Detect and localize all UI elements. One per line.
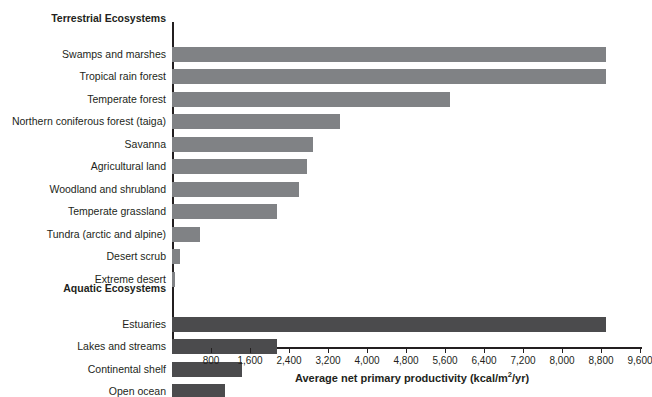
category-label: Agricultural land: [0, 161, 172, 172]
group-heading-aquatic: Aquatic Ecosystems: [0, 283, 172, 294]
bar: [172, 227, 200, 242]
x-axis-tick-label: 9,600: [627, 355, 652, 367]
x-axis-tick: [367, 348, 368, 353]
bar: [172, 114, 340, 129]
x-axis-tick: [640, 348, 641, 353]
bar: [172, 69, 606, 84]
bar: [172, 249, 180, 264]
bar: [172, 204, 277, 219]
category-label: Tundra (arctic and alpine): [0, 229, 172, 240]
bar: [172, 317, 606, 332]
group-heading-terrestrial: Terrestrial Ecosystems: [0, 13, 172, 24]
category-label: Continental shelf: [0, 364, 172, 375]
x-axis-tick: [250, 348, 251, 353]
primary-productivity-bar-chart: Terrestrial EcosystemsSwamps and marshes…: [0, 0, 652, 397]
category-label: Savanna: [0, 139, 172, 150]
x-axis-tick-label: 1,600: [237, 355, 262, 367]
bar: [172, 92, 450, 107]
x-axis-tick-label: 7,200: [510, 355, 535, 367]
bar: [172, 47, 606, 62]
x-axis-tick-label: 4,000: [354, 355, 379, 367]
category-label: Estuaries: [0, 319, 172, 330]
x-axis-tick: [289, 348, 290, 353]
x-axis-tick: [328, 348, 329, 353]
category-label: Temperate forest: [0, 94, 172, 105]
x-axis-tick-label: 800: [203, 355, 220, 367]
x-axis-tick: [562, 348, 563, 353]
x-axis-title-prefix: Average net primary productivity (kcal/m: [295, 372, 508, 384]
x-axis-tick: [601, 348, 602, 353]
category-label: Temperate grassland: [0, 206, 172, 217]
category-label: Northern coniferous forest (taiga): [0, 116, 172, 127]
x-axis-tick-label: 8,000: [549, 355, 574, 367]
x-axis-tick-label: 3,200: [315, 355, 340, 367]
category-label: Desert scrub: [0, 251, 172, 262]
category-label-column: Terrestrial EcosystemsSwamps and marshes…: [0, 0, 172, 397]
x-axis-tick-label: 5,600: [432, 355, 457, 367]
x-axis-tick-label: 6,400: [471, 355, 496, 367]
plot-area: Average net primary productivity (kcal/m…: [172, 0, 652, 397]
bar: [172, 384, 225, 397]
category-label: Woodland and shrubland: [0, 184, 172, 195]
x-axis-tick: [523, 348, 524, 353]
category-label: Tropical rain forest: [0, 71, 172, 82]
category-label: Swamps and marshes: [0, 49, 172, 60]
bar: [172, 272, 175, 287]
category-label: Lakes and streams: [0, 341, 172, 352]
x-axis-title-suffix: /yr): [512, 372, 529, 384]
x-axis-tick: [211, 348, 212, 353]
x-axis-tick-label: 2,400: [276, 355, 301, 367]
bar: [172, 137, 313, 152]
bar: [172, 182, 299, 197]
x-axis-title: Average net primary productivity (kcal/m…: [172, 372, 652, 384]
x-axis-tick: [445, 348, 446, 353]
bar: [172, 339, 277, 354]
bar: [172, 159, 307, 174]
category-label: Open ocean: [0, 386, 172, 397]
x-axis-tick: [406, 348, 407, 353]
x-axis-tick: [484, 348, 485, 353]
x-axis-tick-label: 8,800: [588, 355, 613, 367]
x-axis-tick-label: 4,800: [393, 355, 418, 367]
